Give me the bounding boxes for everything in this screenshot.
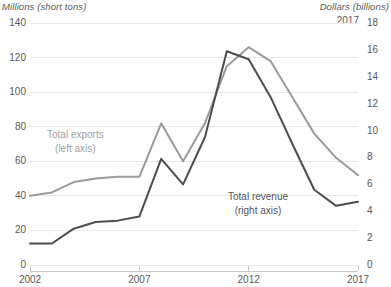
x-axis-tick-label: 2007 <box>128 274 150 285</box>
series-annotation-exports: Total exports (left axis) <box>47 128 104 155</box>
x-axis-tick-label: 2012 <box>238 274 260 285</box>
exports-annotation-name: Total exports <box>47 128 104 142</box>
exports-annotation-axis: (left axis) <box>47 142 104 156</box>
revenue-annotation-axis: (right axis) <box>228 204 288 218</box>
x-axis-tick-label: 2002 <box>19 274 41 285</box>
revenue-annotation-name: Total revenue <box>228 190 288 204</box>
x-axis-tick-label: 2017 <box>347 274 369 285</box>
chart-container: Millions (short tons) Dollars (billions)… <box>0 0 391 287</box>
series-annotation-revenue: Total revenue (right axis) <box>228 190 288 217</box>
